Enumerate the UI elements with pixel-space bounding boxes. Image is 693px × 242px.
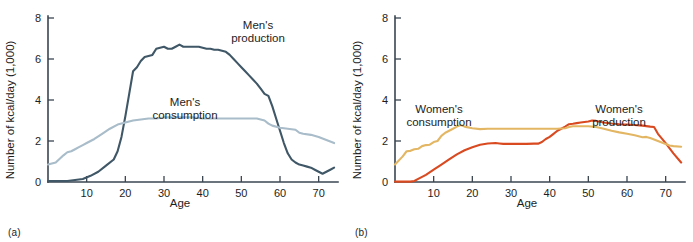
panel-caption-a: (a) bbox=[8, 227, 21, 238]
x-tick-label-b-50: 50 bbox=[582, 187, 594, 199]
x-tick-label-a-70: 70 bbox=[313, 187, 325, 199]
figure-container: 0246810203040506070 Number of kcal/day (… bbox=[0, 0, 693, 242]
y-tick-label-b-4: 4 bbox=[382, 94, 388, 106]
series-annotation-women-consumption-line2: consumption bbox=[406, 116, 471, 128]
x-tick-label-a-60: 60 bbox=[274, 187, 286, 199]
x-tick-label-b-20: 20 bbox=[466, 187, 478, 199]
chart-plot-a: 0246810203040506070 Number of kcal/day (… bbox=[0, 0, 346, 210]
x-axis-title-a: Age bbox=[170, 197, 190, 209]
y-tick-label-b-0: 0 bbox=[382, 176, 388, 188]
series-annotation-women-consumption-line1: Women's bbox=[415, 103, 463, 115]
x-tick-label-b-40: 40 bbox=[544, 187, 556, 199]
chart-panel-b: 0246810203040506070 Number of kcal/day (… bbox=[347, 0, 693, 242]
series-annotation-women-production-line2: production bbox=[592, 116, 646, 128]
x-tick-label-b-30: 30 bbox=[505, 187, 517, 199]
y-tick-label-a-0: 0 bbox=[35, 176, 41, 188]
y-axis-title-a: Number of kcal/day (1,000) bbox=[4, 40, 16, 179]
series-annotation-men-consumption-line2: consumption bbox=[152, 109, 217, 121]
chart-plot-b: 0246810203040506070 Number of kcal/day (… bbox=[347, 0, 693, 210]
x-tick-label-a-40: 40 bbox=[197, 187, 209, 199]
series-annotation-men-consumption-line1: Men's bbox=[170, 96, 201, 108]
x-tick-label-b-60: 60 bbox=[621, 187, 633, 199]
y-axis-title-b: Number of kcal/day (1,000) bbox=[351, 40, 363, 179]
y-tick-label-a-2: 2 bbox=[35, 135, 41, 147]
y-tick-label-a-4: 4 bbox=[35, 94, 41, 106]
panel-caption-b: (b) bbox=[355, 227, 368, 238]
x-tick-label-b-10: 10 bbox=[428, 187, 440, 199]
chart-panel-a: 0246810203040506070 Number of kcal/day (… bbox=[0, 0, 346, 242]
x-tick-label-a-20: 20 bbox=[119, 187, 131, 199]
series-annotation-men-production-line1: Men's bbox=[243, 19, 274, 31]
y-tick-label-b-2: 2 bbox=[382, 135, 388, 147]
series-annotation-men-production-line2: production bbox=[231, 32, 285, 44]
y-tick-label-b-6: 6 bbox=[382, 53, 388, 65]
x-tick-label-b-70: 70 bbox=[660, 187, 672, 199]
x-tick-label-a-10: 10 bbox=[81, 187, 93, 199]
x-tick-label-a-50: 50 bbox=[235, 187, 247, 199]
x-axis-title-b: Age bbox=[517, 197, 537, 209]
series-annotation-women-production-line1: Women's bbox=[595, 103, 643, 115]
series-group-b bbox=[395, 121, 681, 182]
y-tick-label-b-8: 8 bbox=[382, 12, 388, 24]
y-tick-label-a-8: 8 bbox=[35, 12, 41, 24]
data-line-women-s-consumption bbox=[395, 125, 681, 165]
x-tick-label-a-30: 30 bbox=[158, 187, 170, 199]
y-tick-label-a-6: 6 bbox=[35, 53, 41, 65]
